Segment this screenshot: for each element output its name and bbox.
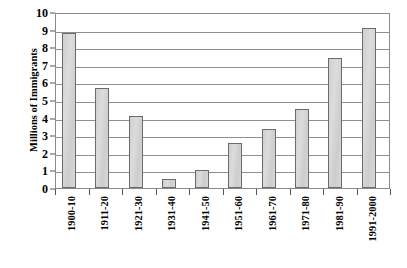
y-axis-tick-mark <box>50 153 55 154</box>
plot-area <box>55 13 390 189</box>
bar[interactable] <box>195 170 209 188</box>
bar-slot <box>89 14 122 188</box>
y-axis-tick-label: 2 <box>42 148 48 160</box>
bar[interactable] <box>95 88 109 188</box>
x-axis-tick-labels: 1900-101911-201921-301931-401941-501951-… <box>55 196 390 268</box>
x-axis-tick-mark <box>55 189 56 195</box>
x-axis-tick-mark <box>223 189 224 195</box>
x-axis-tick-label: 1991-2000 <box>368 196 379 242</box>
bar-slot <box>222 14 255 188</box>
x-axis-tick-mark <box>122 189 123 195</box>
x-axis-tick-mark <box>323 189 324 195</box>
x-axis-tick-mark <box>390 189 391 195</box>
y-axis-tick-label: 7 <box>42 60 48 72</box>
x-axis-tick-label: 1961-70 <box>268 196 279 231</box>
x-axis-tick-mark <box>256 189 257 195</box>
y-axis-tick-label: 8 <box>42 42 48 54</box>
x-axis-tick-label: 1971-80 <box>301 196 312 231</box>
y-axis-tick-label: 5 <box>42 95 48 107</box>
x-label-slot: 1981-90 <box>323 196 357 268</box>
bar[interactable] <box>262 129 276 188</box>
x-axis-tick-label: 1911-20 <box>100 196 111 230</box>
y-axis-tick-label: 3 <box>42 130 48 142</box>
x-label-slot: 1941-50 <box>189 196 223 268</box>
bar-slot <box>189 14 222 188</box>
x-label-slot: 1991-2000 <box>357 196 391 268</box>
x-axis-tick-label: 1931-40 <box>167 196 178 231</box>
x-label-slot: 1911-20 <box>89 196 123 268</box>
y-axis-tick-mark <box>50 189 55 190</box>
bar[interactable] <box>228 143 242 188</box>
y-axis-tick-labels: 012345678910 <box>26 13 48 189</box>
y-axis-tick-mark <box>50 65 55 66</box>
x-axis-tick-label: 1921-30 <box>134 196 145 231</box>
bar[interactable] <box>328 58 342 188</box>
x-axis-tick-marks <box>55 189 390 195</box>
x-axis-tick-mark <box>290 189 291 195</box>
bar[interactable] <box>129 116 143 188</box>
bar-slot <box>289 14 322 188</box>
x-axis-tick-label: 1900-10 <box>67 196 78 231</box>
y-axis-tick-mark <box>50 101 55 102</box>
x-label-slot: 1961-70 <box>256 196 290 268</box>
x-label-slot: 1900-10 <box>55 196 89 268</box>
bar[interactable] <box>295 109 309 188</box>
y-axis-tick-mark <box>50 30 55 31</box>
bar-slot <box>156 14 189 188</box>
y-axis-tick-label: 0 <box>42 183 48 195</box>
x-label-slot: 1921-30 <box>122 196 156 268</box>
y-axis-tick-label: 10 <box>36 7 48 19</box>
bar[interactable] <box>362 28 376 188</box>
y-axis-tick-label: 6 <box>42 77 48 89</box>
y-axis-tick-mark <box>50 171 55 172</box>
y-axis-tick-mark <box>50 136 55 137</box>
bar-slot <box>123 14 156 188</box>
x-label-slot: 1951-60 <box>223 196 257 268</box>
x-axis-tick-label: 1951-60 <box>234 196 245 231</box>
x-axis-tick-mark <box>357 189 358 195</box>
bar-slot <box>322 14 355 188</box>
bar-slot <box>56 14 89 188</box>
bar[interactable] <box>162 179 176 188</box>
x-axis-tick-mark <box>189 189 190 195</box>
bar-slot <box>256 14 289 188</box>
y-axis-tick-label: 4 <box>42 113 48 125</box>
x-axis-tick-label: 1981-90 <box>335 196 346 231</box>
y-axis-tick-mark <box>50 48 55 49</box>
bar-chart: Millions of Immigrants 012345678910 1900… <box>0 0 407 268</box>
x-label-slot: 1931-40 <box>156 196 190 268</box>
y-axis-tick-mark <box>50 13 55 14</box>
x-label-slot: 1971-80 <box>290 196 324 268</box>
y-axis-tick-mark <box>50 118 55 119</box>
y-axis-tick-mark <box>50 83 55 84</box>
x-axis-tick-mark <box>156 189 157 195</box>
bar[interactable] <box>62 33 76 188</box>
bars-group <box>56 14 389 188</box>
bar-slot <box>356 14 389 188</box>
x-axis-tick-label: 1941-50 <box>201 196 212 231</box>
y-axis-tick-label: 9 <box>42 25 48 37</box>
x-axis-tick-mark <box>89 189 90 195</box>
y-axis-tick-label: 1 <box>42 165 48 177</box>
